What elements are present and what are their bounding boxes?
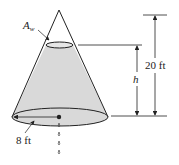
drip-drops: [58, 123, 60, 154]
diagram-canvas: 8 ft Aw h 20 ft: [0, 0, 179, 165]
water-area-label: Aw: [22, 19, 35, 33]
water-area-leader: [38, 30, 49, 40]
cone-diagram: 8 ft Aw h 20 ft: [0, 0, 179, 165]
water-surface-ellipse: [46, 42, 73, 48]
height-h-label: h: [133, 73, 139, 85]
total-height-label: 20 ft: [145, 59, 165, 71]
radius-label: 8 ft: [16, 134, 31, 146]
drain-hole: [57, 115, 61, 119]
